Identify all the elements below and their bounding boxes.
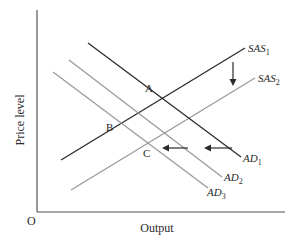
ad3-curve (53, 72, 208, 188)
left-arrow-icon (162, 145, 188, 152)
point-c-label: C (143, 147, 150, 159)
ad2-curve (69, 60, 222, 177)
left-arrow-icon (204, 145, 232, 152)
y-axis-label: Price level (13, 94, 27, 146)
point-a-label: A (145, 82, 153, 94)
sas1-curve (61, 48, 245, 160)
ad-sas-diagram: A B C SAS1 SAS2 AD1 AD2 AD3 Price level … (0, 0, 299, 244)
ad2-label: AD2 (223, 171, 243, 186)
sas1-label: SAS1 (248, 42, 270, 57)
origin-label: O (27, 214, 36, 228)
down-arrow-icon (230, 62, 237, 86)
ad3-label: AD3 (206, 186, 226, 201)
sas2-label: SAS2 (258, 72, 280, 87)
x-axis-label: Output (140, 221, 174, 235)
point-b-label: B (106, 121, 113, 133)
ad1-label: AD1 (242, 152, 262, 167)
